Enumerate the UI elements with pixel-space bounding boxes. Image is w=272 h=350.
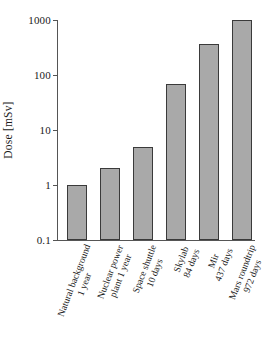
y-tick-label: 0.1 (37, 235, 51, 246)
bar (166, 84, 186, 240)
y-axis-title: Dose [mSv] (2, 101, 14, 158)
plot-area: 10001001010.1 (57, 20, 255, 240)
y-tick-mark (53, 185, 58, 186)
y-tick-mark (53, 20, 58, 21)
x-axis-label: Natural background1 year (54, 243, 102, 322)
y-tick-mark (53, 240, 58, 241)
x-axis-line (57, 240, 255, 241)
x-axis-labels: Natural background1 yearNuclear powerpla… (57, 243, 255, 350)
bar (67, 185, 87, 240)
y-tick-mark (53, 75, 58, 76)
x-axis-label: Mir437 days (201, 243, 234, 283)
y-tick-label: 1000 (28, 15, 51, 26)
y-tick-label: 1 (45, 180, 51, 191)
bar (199, 44, 219, 240)
y-tick-mark (53, 130, 58, 131)
bar (100, 168, 120, 240)
dose-bar-chart: Dose [mSv] 10001001010.1 Natural backgro… (0, 0, 272, 350)
x-axis-label: Skylab84 days (170, 243, 202, 279)
bar (232, 20, 252, 240)
bar (133, 147, 153, 240)
y-tick-label: 100 (34, 70, 51, 81)
y-tick-label: 10 (40, 125, 51, 136)
